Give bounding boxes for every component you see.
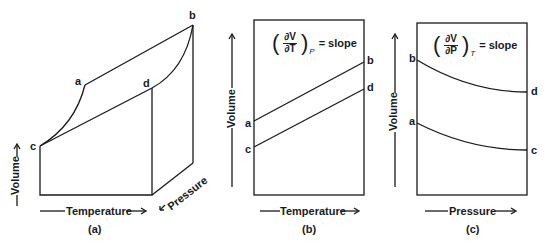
point-d-label: d	[143, 78, 150, 89]
formula-numerator: ∂V	[283, 32, 297, 44]
pressure-axis-label: Pressure	[449, 206, 496, 217]
point-b-label: b	[189, 10, 196, 21]
formula-denominator: ∂T	[285, 44, 296, 55]
formula-equals: = slope	[319, 37, 357, 49]
point-b-label: b	[367, 55, 374, 66]
volume-axis-label: Volume	[10, 156, 21, 195]
point-c-label: c	[531, 145, 537, 156]
caption-a: (a)	[88, 223, 101, 235]
formula-dv-dp: ( ∂V∂P ) T = slope	[433, 34, 517, 56]
caption-c: (c)	[466, 223, 479, 235]
point-d-label: d	[531, 86, 538, 97]
panel-a-surface	[14, 25, 193, 214]
point-a-label: a	[409, 116, 415, 127]
point-a-label: a	[245, 118, 251, 129]
volume-axis-label: Volume	[388, 92, 399, 131]
formula-equals: = slope	[479, 39, 517, 51]
point-a-label: a	[75, 76, 81, 87]
formula-numerator: ∂V	[444, 34, 458, 46]
point-b-label: b	[409, 53, 416, 64]
point-d-label: d	[367, 82, 374, 93]
formula-denominator: ∂P	[445, 46, 457, 57]
formula-subscript: T	[470, 49, 475, 58]
caption-b: (b)	[302, 223, 316, 235]
volume-axis-label: Volume	[226, 89, 237, 128]
formula-subscript: P	[309, 47, 314, 56]
formula-dv-dt: ( ∂V∂T ) P = slope	[272, 32, 357, 54]
point-c-label: c	[30, 141, 36, 152]
temperature-axis-label: Temperature	[66, 206, 132, 217]
point-c-label: c	[245, 144, 251, 155]
temperature-axis-label: Temperature	[280, 206, 346, 217]
